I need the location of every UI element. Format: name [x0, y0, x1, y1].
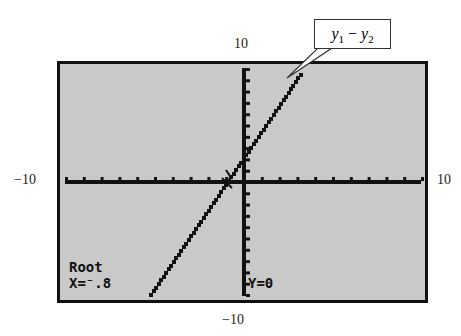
calculator-screen: Root X=⁻.8 Y=0 [57, 61, 428, 303]
line-y1-minus-y2 [149, 73, 303, 297]
x-readout: X=⁻.8 [69, 276, 111, 290]
series-callout-label: y1 − y2 [314, 19, 391, 49]
ymin-label: −10 [222, 312, 244, 328]
xmax-label: 10 [437, 172, 451, 188]
y-readout: Y=0 [248, 276, 273, 290]
axes [65, 68, 421, 296]
mode-text: Root [69, 260, 103, 274]
xmin-label: −10 [14, 172, 36, 188]
ymax-label: 10 [234, 36, 248, 52]
graph-plot [60, 64, 425, 300]
y-axis [242, 68, 246, 296]
